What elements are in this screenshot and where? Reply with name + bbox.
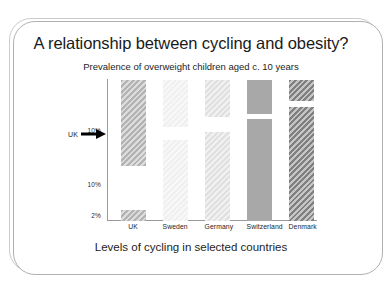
x-axis-tick-label: Germany (205, 223, 230, 230)
y-axis-tick-label: 10% (87, 181, 101, 188)
bar-group[interactable]: Denmark (289, 79, 314, 221)
uk-annotation: UK (68, 128, 107, 139)
bar-segment[interactable] (121, 210, 146, 221)
bar-segment[interactable] (289, 80, 314, 101)
y-axis-line (107, 79, 108, 221)
x-axis-tick-label: UK (121, 223, 146, 230)
arrow-right-icon (81, 128, 107, 139)
bar-group[interactable]: Sweden (163, 79, 188, 221)
bar-group[interactable]: Germany (205, 79, 230, 221)
slide-content: A relationship between cycling and obesi… (13, 21, 383, 275)
bar-segment[interactable] (163, 140, 188, 221)
x-axis-tick-label: Switzerland (247, 223, 272, 230)
bar-segment[interactable] (205, 132, 230, 221)
bar-segment[interactable] (289, 107, 314, 221)
y-axis-tick-label: 2% (91, 212, 101, 219)
bar-segment[interactable] (163, 80, 188, 127)
bar-segment[interactable] (247, 119, 272, 221)
x-axis-tick-label: Denmark (289, 223, 314, 230)
page-title: A relationship between cycling and obesi… (13, 34, 369, 53)
chart-plot-area: 10%10%2% UKSwedenGermanySwitzerlandDenma… (107, 79, 317, 221)
bar-segment[interactable] (247, 80, 272, 113)
chart-caption: Levels of cycling in selected countries (13, 241, 369, 253)
bar-segment[interactable] (205, 80, 230, 116)
uk-annotation-label: UK (68, 130, 78, 137)
bar-segment[interactable] (121, 80, 146, 166)
bar-group[interactable]: UK (121, 79, 146, 221)
chart-subtitle: Prevalence of overweight children aged c… (13, 61, 369, 72)
x-axis-tick-label: Sweden (163, 223, 188, 230)
bar-group[interactable]: Switzerland (247, 79, 272, 221)
